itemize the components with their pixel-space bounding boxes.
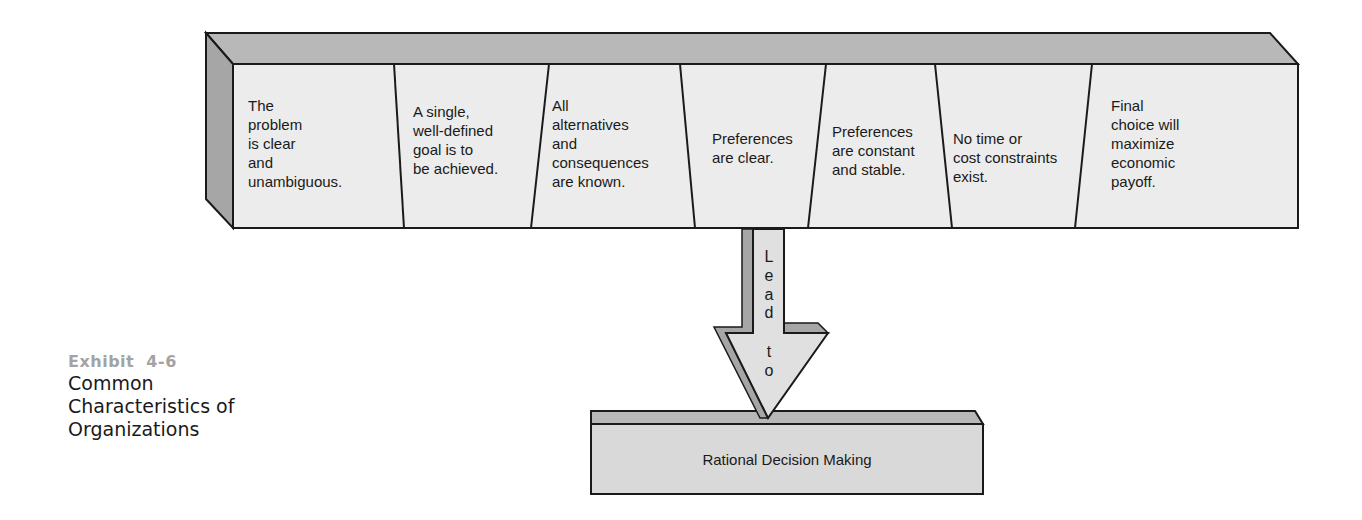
arrow-letter: t bbox=[758, 342, 780, 362]
characteristic-cell-3: All alternatives and consequences are kn… bbox=[552, 96, 649, 191]
exhibit-title: Common Characteristics of Organizations bbox=[68, 372, 234, 441]
exhibit-number: Exhibit 4-6 bbox=[68, 352, 234, 372]
characteristic-cell-6: No time or cost constraints exist. bbox=[953, 129, 1057, 186]
exhibit-caption: Exhibit 4-6 Common Characteristics of Or… bbox=[68, 352, 234, 441]
characteristic-cell-4: Preferences are clear. bbox=[712, 129, 793, 167]
arrow-letter: L bbox=[758, 247, 780, 267]
result-label: Rational Decision Making bbox=[591, 424, 983, 494]
characteristic-cell-1: The problem is clear and unambiguous. bbox=[248, 96, 342, 191]
characteristic-cell-2: A single, well-defined goal is to be ach… bbox=[413, 102, 498, 178]
arrow-letter: a bbox=[758, 285, 780, 305]
arrow-ledge bbox=[784, 323, 828, 333]
arrow-letter: e bbox=[758, 266, 780, 286]
arrow-letter: o bbox=[758, 361, 780, 381]
top-bar-top-face bbox=[206, 33, 1298, 64]
result-bar-top-face bbox=[591, 411, 983, 424]
characteristic-cell-5: Preferences are constant and stable. bbox=[832, 122, 915, 179]
top-bar-side-face bbox=[206, 33, 233, 228]
characteristic-cell-7: Final choice will maximize economic payo… bbox=[1111, 96, 1179, 191]
arrow-letter: d bbox=[758, 303, 780, 323]
